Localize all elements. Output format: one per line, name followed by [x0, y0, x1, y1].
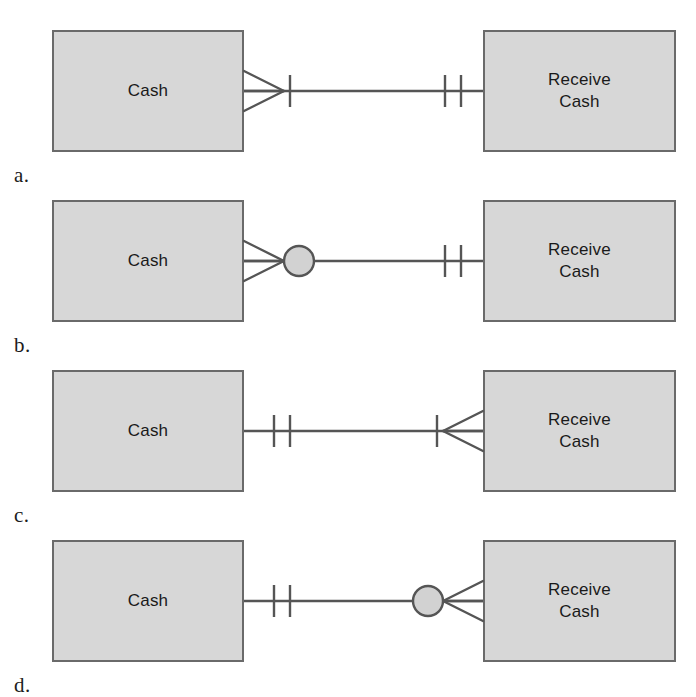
er-diagram: CashReceive Casha.CashReceive Cashb.Cash…	[0, 0, 696, 697]
relationship-connector	[0, 360, 696, 530]
crow-foot-icon	[443, 581, 483, 621]
er-row: CashReceive Cashc.	[0, 360, 696, 530]
row-label: d.	[14, 673, 31, 697]
optionality-circle-icon	[284, 246, 314, 276]
crow-foot-icon	[244, 71, 284, 111]
relationship-connector	[0, 20, 696, 190]
er-row: CashReceive Cashd.	[0, 530, 696, 697]
crow-foot-icon	[443, 411, 483, 451]
row-label: a.	[14, 163, 29, 188]
relationship-connector	[0, 530, 696, 697]
row-label: b.	[14, 333, 31, 358]
relationship-connector	[0, 190, 696, 360]
er-row: CashReceive Cashb.	[0, 190, 696, 360]
er-row: CashReceive Casha.	[0, 20, 696, 190]
row-label: c.	[14, 503, 29, 528]
crow-foot-icon	[244, 241, 284, 281]
optionality-circle-icon	[413, 586, 443, 616]
